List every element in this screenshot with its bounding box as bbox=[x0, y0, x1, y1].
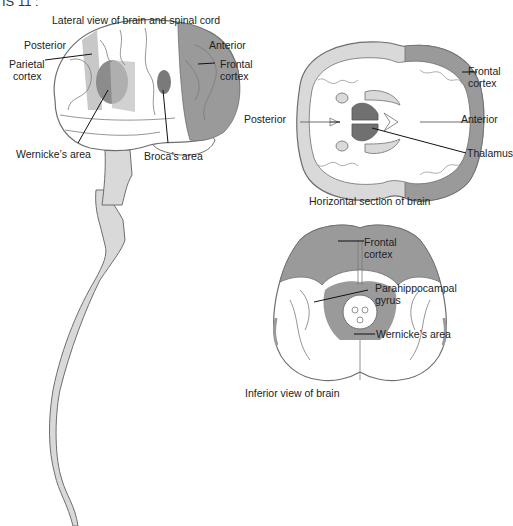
horizontal-section bbox=[297, 42, 484, 201]
horizontal-thalamus-label: Thalamus bbox=[467, 147, 513, 159]
lateral-posterior-label: Posterior bbox=[24, 39, 66, 51]
inferior-frontal-label: Frontal cortex bbox=[364, 236, 397, 260]
brainstem bbox=[102, 150, 132, 205]
horizontal-anterior-label: Anterior bbox=[461, 113, 498, 125]
brainstem-cross-section bbox=[343, 295, 377, 329]
horizontal-frontal-label: Frontal cortex bbox=[468, 65, 501, 89]
inferior-caption: Inferior view of brain bbox=[245, 387, 340, 399]
lateral-parietal-label: Parietal cortex bbox=[9, 58, 45, 82]
lateral-caption: Lateral view of brain and spinal cord bbox=[52, 14, 220, 26]
inferior-wernicke-label: Wernicke’s area bbox=[376, 328, 451, 340]
lateral-brain bbox=[45, 20, 240, 526]
lateral-frontal-label: Frontal cortex bbox=[220, 58, 253, 82]
spinal-cord bbox=[49, 190, 125, 526]
inferior-parahippocampal-label: Parahippocampal gyrus bbox=[375, 282, 457, 306]
lateral-anterior-label: Anterior bbox=[209, 39, 246, 51]
horizontal-caption: Horizontal section of brain bbox=[309, 195, 430, 207]
lateral-broca-label: Broca’s area bbox=[144, 150, 203, 162]
horizontal-posterior-label: Posterior bbox=[244, 113, 286, 125]
lateral-wernicke-label: Wernicke’s area bbox=[16, 148, 91, 160]
lateral-broca-region bbox=[157, 70, 171, 94]
